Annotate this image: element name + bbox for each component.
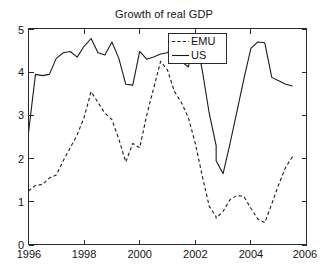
x-tick-label: 2002 bbox=[183, 248, 207, 260]
data-series-group bbox=[29, 35, 293, 222]
plot-area: 0 1 2 3 4 5 1996 1998 2000 2002 2004 200… bbox=[0, 0, 328, 277]
y-axis-labels: 0 1 2 3 4 5 bbox=[18, 24, 24, 252]
x-tick-label: 1996 bbox=[17, 248, 41, 260]
chart-figure: Growth of real GDP bbox=[0, 0, 328, 277]
axes-frame bbox=[29, 29, 307, 245]
chart-legend[interactable]: EMU US bbox=[169, 34, 227, 64]
series-line-emu bbox=[29, 61, 293, 222]
y-tick-label: 4 bbox=[18, 66, 24, 78]
y-tick-label: 3 bbox=[18, 109, 24, 121]
x-tick-label: 2006 bbox=[293, 248, 317, 260]
x-tick-label: 2004 bbox=[239, 248, 263, 260]
legend-label-emu: EMU bbox=[191, 35, 216, 47]
y-tick-label: 5 bbox=[18, 24, 24, 36]
y-tick-marks bbox=[29, 29, 307, 245]
x-tick-marks bbox=[29, 29, 307, 245]
x-axis-labels: 1996 1998 2000 2002 2004 2006 bbox=[17, 248, 317, 260]
x-tick-label: 2000 bbox=[127, 248, 151, 260]
y-tick-label: 1 bbox=[18, 196, 24, 208]
series-line-us bbox=[29, 35, 293, 173]
x-tick-label: 1998 bbox=[72, 248, 96, 260]
y-tick-label: 2 bbox=[18, 153, 24, 165]
legend-label-us: US bbox=[191, 49, 206, 61]
